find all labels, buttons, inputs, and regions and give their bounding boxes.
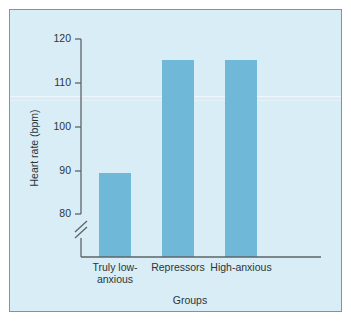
y-tick-label: 100: [53, 120, 71, 132]
bar-high-anxious: [225, 60, 257, 257]
y-axis-title: Heart rate (bpm): [28, 109, 40, 186]
chart-figure: 120 110 100 90 80 Heart rate (bpm) Truly…: [9, 9, 342, 312]
bars-group: [99, 60, 257, 257]
y-tick-label: 80: [59, 207, 71, 219]
x-tick-label-truly-low-anxious-line1: Truly low-: [92, 261, 138, 273]
y-axis: 120 110 100 90 80 Heart rate (bpm): [28, 32, 87, 257]
bar-chart-plot: 120 110 100 90 80 Heart rate (bpm) Truly…: [10, 10, 342, 312]
x-tick-label-truly-low-anxious-line2: anxious: [97, 273, 133, 285]
y-tick-label: 110: [54, 76, 71, 88]
bar-repressors: [162, 60, 194, 257]
y-tick-label: 90: [59, 164, 71, 176]
x-tick-label-high-anxious: High-anxious: [210, 261, 271, 273]
y-tick-label: 120: [53, 32, 71, 44]
x-axis: Truly low- anxious Repressors High-anxio…: [81, 257, 321, 306]
bar-truly-low-anxious: [99, 173, 131, 257]
x-tick-label-repressors: Repressors: [151, 261, 205, 273]
x-axis-title: Groups: [173, 294, 207, 306]
